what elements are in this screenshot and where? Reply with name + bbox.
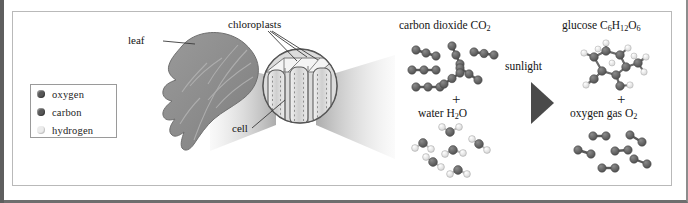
oxygen-atom-icon	[37, 90, 45, 98]
glucose-molecule	[576, 41, 666, 97]
glucose-text: glucose C	[562, 19, 608, 31]
chloroplast-leader-3	[272, 31, 318, 60]
water-molecule	[447, 166, 471, 178]
water-tail: O	[459, 107, 467, 119]
water-molecule	[439, 124, 463, 137]
carbon-atom-icon	[37, 108, 45, 116]
co2-subscript: 2	[487, 24, 491, 33]
sunlight-label: sunlight	[505, 60, 542, 72]
o2-text: oxygen gas O	[570, 107, 633, 119]
glucose-sub-o: 6	[637, 24, 641, 33]
water-molecules	[406, 126, 521, 178]
co2-text: carbon dioxide CO	[399, 19, 487, 31]
water-molecule	[423, 154, 445, 171]
chloroplast-leader-1	[268, 31, 297, 61]
glucose-h: H	[612, 19, 620, 31]
water-molecule	[442, 146, 467, 158]
legend-label-oxygen: oxygen	[52, 89, 84, 100]
chloroplast-leader-2	[270, 31, 307, 57]
chloroplasts-label: chloroplasts	[228, 18, 281, 30]
water-title: water H2O	[418, 107, 467, 121]
cell-label: cell	[232, 122, 248, 134]
legend-box: oxygen carbon hydrogen	[30, 84, 117, 138]
photosynthesis-diagram: leaf chloroplasts cell oxygen carbon hyd…	[0, 0, 688, 203]
legend-item-oxygen: oxygen	[31, 85, 116, 103]
water-molecule	[469, 136, 491, 154]
leaf-label: leaf	[128, 34, 144, 46]
leaf-leader	[163, 41, 195, 44]
hydrogen-atom-icon	[37, 126, 45, 134]
carbon-dioxide-title: carbon dioxide CO2	[399, 19, 491, 33]
water-text: water H	[418, 107, 455, 119]
legend-label-carbon: carbon	[52, 107, 82, 118]
plus-products: +	[617, 91, 625, 108]
legend-item-hydrogen: hydrogen	[31, 121, 116, 139]
o2-subscript: 2	[633, 112, 637, 121]
cell-leader	[252, 100, 285, 128]
legend-label-hydrogen: hydrogen	[52, 125, 93, 136]
plus-reactants: +	[452, 91, 460, 108]
glucose-o: O	[628, 19, 636, 31]
water-molecule	[412, 139, 435, 153]
oxygen-gas-title: oxygen gas O2	[570, 107, 637, 121]
reaction-arrow	[528, 80, 558, 126]
glucose-title: glucose C6H12O6	[562, 19, 641, 33]
oxygen-gas-molecules	[570, 130, 675, 178]
legend-item-carbon: carbon	[31, 103, 116, 121]
